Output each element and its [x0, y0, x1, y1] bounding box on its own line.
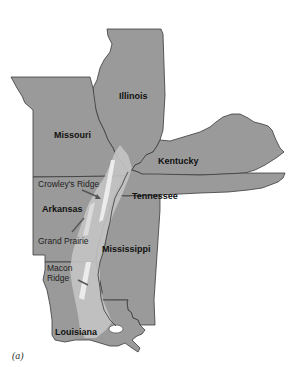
label-macon: Macon — [47, 263, 73, 273]
figure-caption: (a) — [12, 350, 24, 362]
lake-pontchartrain — [109, 325, 123, 333]
label-louisiana: Louisiana — [55, 327, 98, 337]
map-canvas: Missouri Illinois Kentucky Tennessee Ark… — [0, 0, 295, 367]
label-mississippi: Mississippi — [102, 244, 151, 254]
label-arkansas: Arkansas — [42, 204, 83, 214]
label-ridge: Ridge — [47, 273, 69, 283]
label-crowleys-ridge: Crowley's Ridge — [38, 179, 99, 189]
label-kentucky: Kentucky — [158, 156, 199, 166]
label-grand-prairie: Grand Prairie — [38, 236, 89, 246]
label-missouri: Missouri — [54, 130, 91, 140]
label-illinois: Illinois — [119, 91, 148, 101]
label-tennessee: Tennessee — [132, 191, 178, 201]
